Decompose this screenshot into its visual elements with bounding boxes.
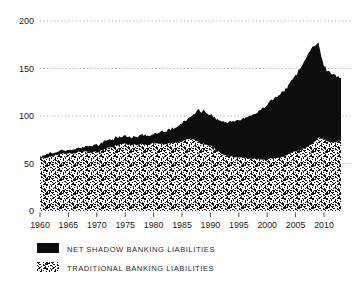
- chart-areas: [40, 42, 341, 211]
- y-tick-label-200: 200: [19, 16, 34, 26]
- x-tick-label-1980: 1980: [144, 220, 164, 230]
- chart-figure: 050100150200 196019651970197519801985199…: [0, 0, 361, 299]
- x-tick-label-2005: 2005: [286, 220, 306, 230]
- x-tick-label-2010: 2010: [314, 220, 334, 230]
- x-tick-label-1975: 1975: [115, 220, 135, 230]
- legend-label-traditional: TRADITIONAL BANKING LIABILITIES: [67, 264, 214, 273]
- legend-swatch-net-shadow: [37, 243, 59, 253]
- x-tick-label-1990: 1990: [201, 220, 221, 230]
- stacked-area-chart: 050100150200 196019651970197519801985199…: [0, 0, 361, 299]
- y-tick-label-100: 100: [19, 111, 34, 121]
- x-tick-label-1960: 1960: [30, 220, 50, 230]
- x-tick-label-1985: 1985: [172, 220, 192, 230]
- x-tick-label-2000: 2000: [257, 220, 277, 230]
- legend-swatch-traditional: [37, 262, 59, 272]
- y-tick-label-50: 50: [24, 159, 34, 169]
- x-axis: 1960196519701975198019851990199520002005…: [30, 213, 334, 230]
- y-tick-label-0: 0: [29, 206, 34, 216]
- y-axis: 050100150200: [19, 16, 34, 216]
- x-tick-label-1965: 1965: [59, 220, 79, 230]
- y-tick-label-150: 150: [19, 64, 34, 74]
- legend: NET SHADOW BANKING LIABILITIES TRADITION…: [37, 243, 215, 273]
- x-tick-label-1970: 1970: [87, 220, 107, 230]
- x-tick-label-1995: 1995: [229, 220, 249, 230]
- legend-label-net-shadow: NET SHADOW BANKING LIABILITIES: [67, 245, 215, 254]
